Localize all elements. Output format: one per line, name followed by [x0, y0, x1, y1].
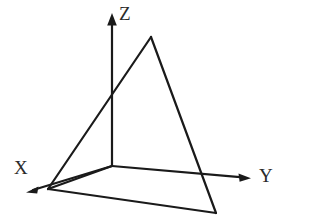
x-axis-label: X — [14, 158, 28, 177]
y-axis-arrowhead-icon — [239, 174, 252, 182]
triangle-left-edge — [48, 37, 151, 189]
x-axis-arrowhead-icon — [26, 187, 39, 194]
base-edge-left-to-right — [48, 189, 216, 213]
y-axis-group — [112, 166, 251, 182]
base-edge-origin-to-left — [48, 166, 112, 189]
z-axis-label: Z — [119, 4, 131, 23]
axes-diagram-svg — [0, 0, 309, 224]
diagram-canvas: Z X Y — [0, 0, 309, 224]
y-axis-line — [112, 166, 243, 177]
z-axis-arrowhead-icon — [107, 13, 117, 26]
y-axis-label: Y — [259, 166, 273, 185]
triangle-right-edge — [151, 37, 216, 213]
triangular-plane-group — [48, 37, 216, 213]
